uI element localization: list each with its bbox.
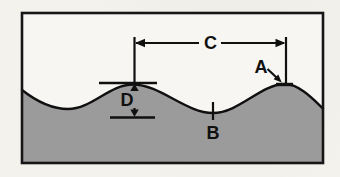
label-d: D <box>121 90 134 110</box>
wave-diagram: C D B A <box>0 0 340 177</box>
label-a: A <box>255 57 268 77</box>
label-b: B <box>207 123 220 143</box>
scanned-diagram-page: C D B A <box>0 0 340 177</box>
label-c: C <box>204 33 217 53</box>
